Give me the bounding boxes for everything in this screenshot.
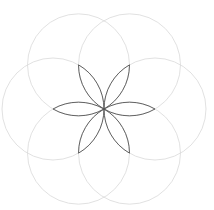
petal-rosette <box>53 65 155 153</box>
petal-0 <box>104 102 155 116</box>
petal-3 <box>53 102 104 116</box>
flower-diagram <box>0 0 214 210</box>
